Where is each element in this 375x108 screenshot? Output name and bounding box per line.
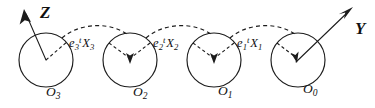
y-axis-label: Y	[355, 20, 365, 37]
sphere-label-o3-base: O	[46, 84, 56, 99]
z-axis-label: Z	[40, 4, 50, 21]
y-axis-arrowhead	[339, 7, 353, 19]
sphere-label-o2-base: O	[133, 84, 143, 99]
inner-arrowhead-o2	[126, 53, 134, 64]
inner-dash-o2-left	[109, 43, 128, 57]
inner-dash-group-o3	[46, 41, 68, 60]
inner-dash-o3-right	[46, 41, 68, 60]
sphere-label-o0-sub: 0	[313, 88, 318, 98]
sphere-label-o0-base: O	[303, 81, 313, 96]
sphere-label-o3: O3	[46, 85, 61, 102]
y-axis-line	[296, 12, 348, 62]
link-1-vector-sub: 1	[258, 42, 262, 52]
inner-dash-o1-right	[216, 43, 234, 57]
sphere-label-o0: O0	[303, 82, 318, 99]
inner-dash-group-o0	[277, 43, 299, 63]
inner-dash-group-o2	[109, 43, 150, 64]
link-label-3: e3tX3	[69, 36, 94, 51]
sphere-label-o1-sub: 1	[228, 90, 233, 100]
sphere-label-o1: O1	[218, 84, 233, 101]
link-2-base-sup: t	[163, 35, 165, 45]
link-2-vector: X	[166, 36, 174, 50]
inner-dash-o1-left	[193, 43, 212, 57]
sphere-label-o2-sub: 2	[143, 91, 148, 101]
sphere-label-o3-sub: 3	[56, 91, 61, 101]
sphere-label-o1-base: O	[218, 83, 228, 98]
inner-dash-o0-left	[277, 43, 294, 56]
link-3-vector: X	[82, 36, 90, 50]
inner-arrowhead-o1	[210, 53, 218, 64]
inner-dash-o2-right	[132, 43, 150, 57]
link-2-base: e	[153, 36, 159, 50]
link-3-base: e	[69, 36, 75, 50]
link-1-base: e	[237, 36, 243, 50]
sphere-chain-figure: Z Y e3tX3 e2tX2 e1tX1 O3 O2 O1 O0	[0, 0, 375, 108]
link-2-vector-sub: 2	[174, 42, 178, 52]
link-1-vector: X	[250, 36, 258, 50]
link-label-2: e2tX2	[153, 36, 178, 51]
sphere-label-o2: O2	[133, 85, 148, 102]
link-3-base-sup: t	[79, 35, 81, 45]
link-3-vector-sub: 3	[90, 42, 94, 52]
link-label-1: e1tX1	[237, 36, 262, 51]
link-1-base-sup: t	[247, 35, 249, 45]
inner-dash-group-o1	[193, 43, 234, 64]
